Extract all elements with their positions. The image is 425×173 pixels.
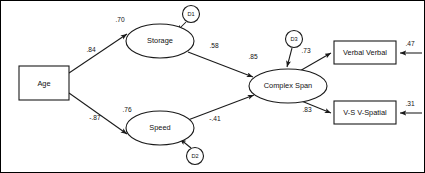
sem-path-diagram: Age Verbal Verbal V-S V-Spatial Storage …: [0, 0, 425, 173]
path-label-d3-complexspan: .85: [248, 53, 257, 60]
path-age-storage: [69, 34, 127, 73]
path-label-residual-vspatial: .31: [405, 100, 414, 107]
path-label-complexspan-vspatial: .83: [302, 106, 311, 113]
path-label-age-storage: .84: [86, 46, 95, 53]
path-label-d2-speed: .76: [122, 106, 131, 113]
node-age-label: Age: [37, 79, 50, 88]
path-label-speed-complexspan: -.41: [209, 115, 221, 122]
node-speed-label: Speed: [149, 123, 170, 132]
path-label-storage-complexspan: .58: [209, 42, 218, 49]
node-vs-vspatial-label: V-S V-Spatial: [343, 108, 387, 117]
path-d3-complexspan: [287, 48, 292, 67]
node-verbal-verbal-label: Verbal Verbal: [343, 48, 387, 57]
path-storage-complexspan: [188, 52, 253, 77]
path-label-complexspan-verbal: .73: [301, 47, 310, 54]
path-diagram-canvas: Age Verbal Verbal V-S V-Spatial Storage …: [0, 0, 425, 173]
node-d1-label: D1: [187, 11, 194, 17]
node-storage-label: Storage: [147, 36, 173, 45]
path-complexspan-verbal: [298, 53, 331, 72]
path-label-d1-storage: .70: [115, 16, 124, 23]
node-complex-span-label: Complex Span: [264, 81, 312, 90]
path-speed-complexspan: [188, 95, 254, 120]
node-d3-label: D3: [290, 36, 297, 42]
path-label-age-speed: -.87: [89, 114, 101, 121]
path-label-residual-verbal: .47: [405, 40, 414, 47]
node-d2-label: D2: [191, 153, 198, 159]
